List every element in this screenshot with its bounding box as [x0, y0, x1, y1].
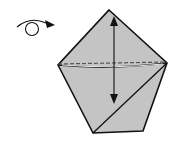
- turn-over-icon: [17, 20, 55, 36]
- origami-diagram: [0, 0, 177, 144]
